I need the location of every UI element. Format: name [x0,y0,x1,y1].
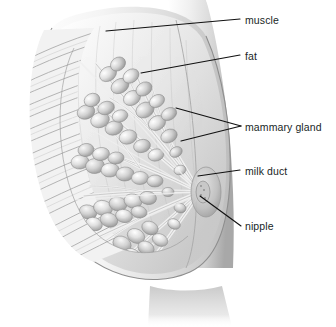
anatomy-illustration [0,0,336,327]
label-nipple: nipple [245,221,274,232]
label-milk-duct: milk duct [245,166,287,177]
label-fat: fat [245,51,257,62]
label-mammary-gland: mammary gland [245,122,322,133]
label-muscle: muscle [245,15,279,26]
breast-anatomy-diagram: muscle fat mammary gland milk duct nippl… [0,0,336,327]
